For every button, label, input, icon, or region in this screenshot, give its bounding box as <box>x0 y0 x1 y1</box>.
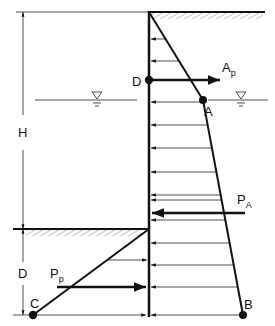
point-A-marker <box>199 96 207 104</box>
top-ground-hatch <box>150 13 263 19</box>
sheet-pile-diagram: H D D A B C Ap PA Pp <box>0 0 275 326</box>
water-level-triangle-icon <box>236 92 246 99</box>
water-level-left <box>35 92 137 106</box>
active-pressure-envelope <box>149 12 243 315</box>
label-point-B: B <box>244 297 253 312</box>
label-point-D: D <box>132 74 141 89</box>
label-Pp: Pp <box>50 266 64 284</box>
dredge-ground-hatch <box>26 230 142 236</box>
label-D-depth: D <box>18 266 27 281</box>
point-B-marker <box>239 311 247 319</box>
label-PA: PA <box>237 192 252 210</box>
point-C-marker <box>29 311 37 319</box>
point-D-marker <box>145 76 153 84</box>
water-level-triangle-icon <box>92 92 102 99</box>
label-point-C: C <box>30 296 39 311</box>
water-level-right <box>208 92 268 106</box>
label-Ap: Ap <box>222 60 236 78</box>
label-H: H <box>18 125 27 140</box>
label-point-A: A <box>204 104 213 119</box>
